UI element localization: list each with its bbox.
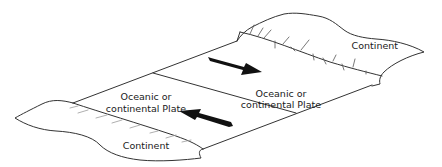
top-continent-front-edge xyxy=(237,32,382,76)
left-plate-label-line1: Oceanic or xyxy=(121,91,172,102)
plate-slab xyxy=(73,41,372,149)
right-plate-label-line1: Oceanic or xyxy=(256,88,307,99)
top-continent-label: Continent xyxy=(352,40,399,51)
arrow-right-plate xyxy=(208,57,262,75)
bottom-continent-label: Continent xyxy=(123,140,170,151)
plate-boundary-diagram: Continent Oceanic or continental Plate O… xyxy=(0,0,442,167)
left-plate-label-line2: continental Plate xyxy=(106,103,186,114)
right-plate-label-line2: continental Plate xyxy=(241,99,321,110)
arrow-down-right-icon xyxy=(208,57,262,75)
arrow-left-plate xyxy=(179,109,233,127)
arrow-up-left-icon xyxy=(179,109,233,127)
